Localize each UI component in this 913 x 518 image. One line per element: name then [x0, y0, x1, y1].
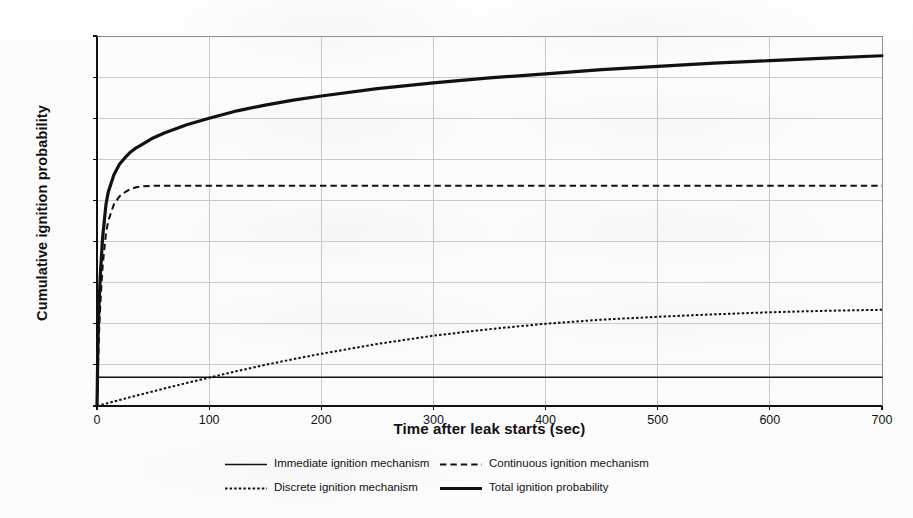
ignition-probability-chart: Cumulative ignition probability Time aft…	[0, 0, 913, 518]
legend-label: Total ignition probability	[489, 482, 609, 494]
legend-line-icon	[440, 460, 482, 469]
series-line	[97, 377, 882, 406]
gridlines	[97, 36, 882, 406]
legend-item[interactable]: Continuous ignition mechanism	[440, 458, 695, 470]
series-line	[97, 186, 882, 406]
legend-item[interactable]: Discrete ignition mechanism	[225, 482, 440, 494]
legend-line-icon	[440, 484, 482, 493]
plot-area	[0, 0, 913, 518]
legend-label: Immediate ignition mechanism	[274, 458, 429, 470]
legend-item[interactable]: Total ignition probability	[440, 482, 695, 494]
legend-label: Continuous ignition mechanism	[489, 458, 649, 470]
series-line	[97, 56, 882, 406]
legend-item[interactable]: Immediate ignition mechanism	[225, 458, 440, 470]
plot-border	[93, 36, 882, 410]
legend-label: Discrete ignition mechanism	[274, 482, 418, 494]
legend-line-icon	[225, 484, 267, 493]
data-series-layer	[97, 56, 882, 406]
chart-legend: Immediate ignition mechanismContinuous i…	[225, 452, 695, 500]
legend-line-icon	[225, 460, 267, 469]
